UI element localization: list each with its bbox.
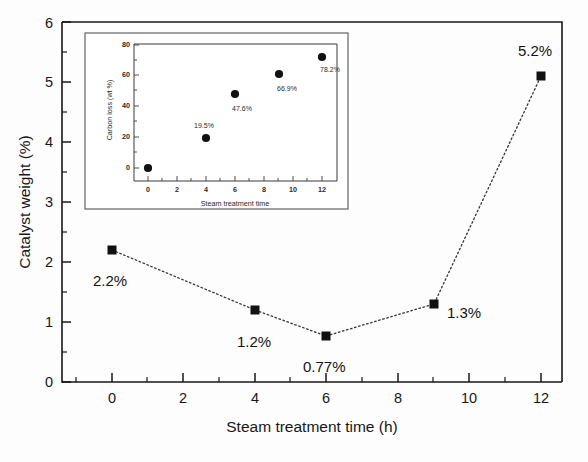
- inset-data-point-6h[interactable]: [231, 90, 239, 98]
- inset-outer-box: [85, 33, 348, 209]
- inset-x-tick-label-2: 2: [175, 185, 179, 194]
- inset-data-point-12h[interactable]: [318, 53, 326, 61]
- inset-data-point-4h[interactable]: [202, 134, 210, 142]
- point-label-9h: 1.3%: [447, 304, 481, 321]
- y-tick-label-6: 6: [45, 15, 53, 31]
- data-point-4h[interactable]: [251, 306, 260, 315]
- main-y-ticks: [62, 22, 71, 382]
- inset-point-label-4h: 19.5%: [194, 122, 214, 129]
- inset-x-axis-title: Steam treatment time: [201, 199, 270, 208]
- inset-y-tick-label-60: 60: [122, 70, 130, 79]
- inset-x-tick-label-4: 4: [204, 185, 208, 194]
- y-tick-label-3: 3: [45, 194, 53, 210]
- data-point-9h[interactable]: [430, 300, 439, 309]
- y-tick-label-5: 5: [45, 74, 53, 90]
- y-tick-label-0: 0: [45, 374, 53, 390]
- inset-x-tick-label-12: 12: [318, 185, 326, 194]
- data-point-6h[interactable]: [322, 332, 331, 341]
- y-tick-label-4: 4: [45, 134, 53, 150]
- x-tick-label-12: 12: [533, 390, 549, 406]
- data-point-0h[interactable]: [108, 246, 117, 255]
- x-tick-label-2: 2: [179, 390, 187, 406]
- point-label-6h: 0.77%: [303, 358, 346, 375]
- inset-point-label-12h: 78.2%: [320, 66, 340, 73]
- chart-figure: 0 1 2 3 4 5 6 0 2: [0, 0, 588, 462]
- x-tick-label-10: 10: [461, 390, 477, 406]
- inset-y-tick-label-0: 0: [126, 163, 130, 172]
- inset-x-tick-label-6: 6: [233, 185, 237, 194]
- inset-point-label-6h: 47.6%: [232, 105, 252, 112]
- point-label-12h: 5.2%: [518, 42, 552, 59]
- chart-canvas: 0 1 2 3 4 5 6 0 2: [0, 0, 588, 462]
- inset-point-label-9h: 66.9%: [277, 85, 297, 92]
- x-tick-label-6: 6: [322, 390, 330, 406]
- point-label-4h: 1.2%: [237, 333, 271, 350]
- x-tick-label-4: 4: [251, 390, 259, 406]
- inset-chart: 0 20 40 60 80: [85, 33, 348, 209]
- main-y-tick-labels: 0 1 2 3 4 5 6: [45, 15, 53, 390]
- inset-y-tick-label-20: 20: [122, 132, 130, 141]
- point-label-0h: 2.2%: [93, 272, 127, 289]
- inset-data-point-0h[interactable]: [144, 164, 152, 172]
- inset-y-axis-title: Carbon loss (wt %): [105, 80, 114, 141]
- inset-x-tick-label-0: 0: [146, 185, 150, 194]
- inset-y-tick-label-40: 40: [122, 101, 130, 110]
- y-tick-label-1: 1: [45, 314, 53, 330]
- main-y-axis-title: Catalyst weight (%): [16, 135, 33, 269]
- x-tick-label-0: 0: [108, 390, 116, 406]
- data-point-12h[interactable]: [537, 72, 546, 81]
- inset-y-tick-label-80: 80: [122, 40, 130, 49]
- inset-data-point-9h[interactable]: [275, 70, 283, 78]
- main-x-axis-title: Steam treatment time (h): [226, 418, 397, 435]
- y-tick-label-2: 2: [45, 254, 53, 270]
- inset-x-tick-label-8: 8: [262, 185, 266, 194]
- main-x-tick-labels: 0 2 4 6 8 10 12: [108, 390, 549, 406]
- inset-x-tick-label-10: 10: [289, 185, 297, 194]
- x-tick-label-8: 8: [394, 390, 402, 406]
